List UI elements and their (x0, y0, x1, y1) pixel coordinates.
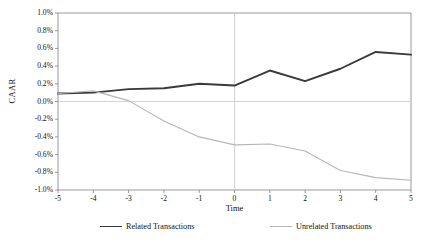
legend-swatch-related-icon (100, 226, 122, 227)
x-axis-tick-label: 2 (293, 195, 317, 203)
legend-item-unrelated: Unrelated Transactions (270, 222, 372, 231)
y-axis-tick-label: 1.0% (17, 9, 53, 17)
y-axis-tick-label: 0.4% (17, 62, 53, 70)
x-axis-tick-label: -1 (187, 195, 211, 203)
caar-line-chart: CAAR 1.0%0.8%0.6%0.4%0.2%0.0%-0.2%-0.4%-… (0, 0, 424, 247)
y-axis-tick-label: 0.0% (17, 98, 53, 106)
x-axis-tick-label: -4 (81, 195, 105, 203)
y-axis-tick-label: -0.8% (17, 168, 53, 176)
y-axis-tick-label: -0.6% (17, 151, 53, 159)
legend-label-related: Related Transactions (126, 222, 194, 231)
y-axis-tick-label: 0.2% (17, 80, 53, 88)
legend-swatch-unrelated-icon (270, 226, 292, 227)
y-axis-tick-label: 0.6% (17, 44, 53, 52)
x-axis-tick-label: 4 (364, 195, 388, 203)
x-axis-tick-label: 1 (258, 195, 282, 203)
x-axis-title: Time (58, 203, 411, 213)
x-axis-tick-label: 0 (223, 195, 247, 203)
legend-label-unrelated: Unrelated Transactions (296, 222, 372, 231)
y-axis-tick-label: -0.2% (17, 115, 53, 123)
legend-item-related: Related Transactions (100, 222, 194, 231)
y-axis-title: CAAR (7, 61, 17, 121)
x-axis-tick-label: -5 (46, 195, 70, 203)
y-axis-tick-label: -1.0% (17, 186, 53, 194)
y-axis-tick-label: 0.8% (17, 27, 53, 35)
x-axis-tick-label: -3 (117, 195, 141, 203)
chart-legend: Related Transactions Unrelated Transacti… (58, 222, 411, 238)
x-axis-tick-label: -2 (152, 195, 176, 203)
y-axis-tick-label: -0.4% (17, 133, 53, 141)
x-axis-tick-label: 5 (399, 195, 423, 203)
x-axis-tick-label: 3 (328, 195, 352, 203)
